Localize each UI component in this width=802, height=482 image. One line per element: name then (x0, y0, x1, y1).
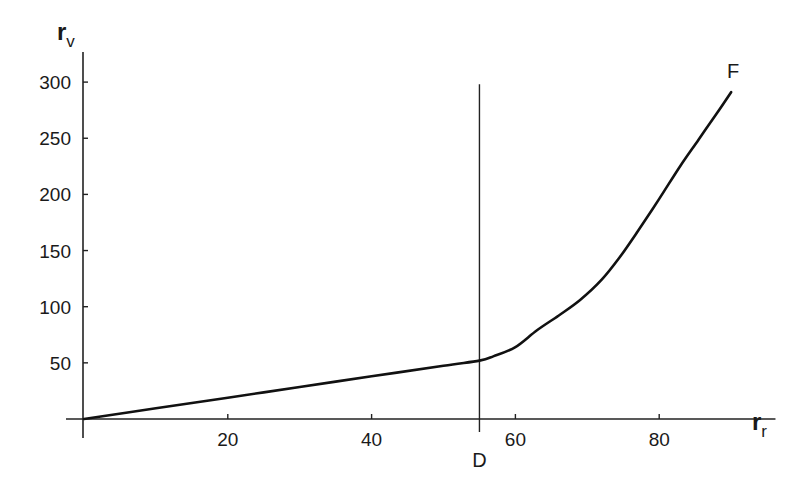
y-tick-label: 200 (39, 184, 71, 205)
annotation-f: F (727, 60, 739, 82)
annotation-d: D (472, 449, 486, 471)
y-ticks: 50100150200250300 (39, 72, 88, 374)
y-tick-label: 50 (50, 353, 71, 374)
y-axis-title-main: r (57, 18, 66, 45)
x-axis-title: rr (752, 408, 767, 441)
axes: 50100150200250300 20406080 (39, 52, 775, 450)
chart: 50100150200250300 20406080 rv rr D F (0, 0, 802, 482)
data-line-f (84, 92, 731, 419)
y-tick-label: 250 (39, 128, 71, 149)
y-axis-title: rv (57, 18, 75, 51)
x-axis-title-main: r (752, 408, 761, 435)
x-tick-label: 80 (649, 429, 670, 450)
y-axis-title-sub: v (66, 32, 75, 51)
x-tick-label: 40 (361, 429, 382, 450)
y-tick-label: 150 (39, 241, 71, 262)
y-tick-label: 100 (39, 297, 71, 318)
x-axis-title-sub: r (761, 422, 767, 441)
y-tick-label: 300 (39, 72, 71, 93)
x-tick-label: 60 (505, 429, 526, 450)
x-tick-label: 20 (217, 429, 238, 450)
